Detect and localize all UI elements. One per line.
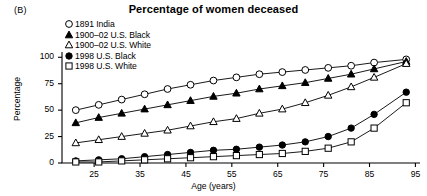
- marker-open-square: [119, 158, 125, 164]
- marker-filled-circle: [403, 89, 409, 95]
- marker-open-circle: [279, 69, 286, 76]
- axis-lines: [62, 52, 420, 163]
- y-tick-label: 0: [28, 157, 54, 167]
- series-line: [76, 92, 406, 161]
- marker-open-square: [96, 159, 102, 165]
- marker-open-triangle: [370, 73, 377, 80]
- marker-filled-circle: [210, 147, 216, 153]
- marker-filled-circle: [302, 139, 308, 145]
- y-tick-label: 50: [28, 104, 54, 114]
- marker-open-circle: [256, 71, 263, 78]
- marker-open-triangle: [347, 83, 354, 90]
- marker-open-square: [73, 159, 79, 165]
- marker-open-square: [325, 145, 331, 151]
- marker-open-circle: [118, 96, 125, 103]
- x-tick-label: 25: [81, 169, 107, 179]
- marker-open-square: [302, 148, 308, 154]
- x-tick-label: 75: [311, 169, 337, 179]
- series-line: [76, 62, 406, 123]
- marker-filled-circle: [348, 125, 354, 131]
- x-tick-label: 65: [265, 169, 291, 179]
- marker-open-square: [164, 156, 170, 162]
- figure-panel: (B) Percentage of women deceased 1891 In…: [0, 0, 427, 196]
- marker-open-circle: [325, 64, 332, 71]
- marker-open-circle: [72, 107, 79, 114]
- marker-open-circle: [187, 81, 194, 88]
- marker-open-circle: [233, 74, 240, 81]
- marker-open-square: [233, 153, 239, 159]
- y-tick-label: 25: [28, 131, 54, 141]
- marker-open-square: [348, 139, 354, 145]
- marker-open-square: [142, 157, 148, 163]
- series-1: [72, 58, 410, 126]
- x-tick-label: 85: [357, 169, 383, 179]
- series-0: [72, 56, 409, 114]
- series-line: [76, 103, 406, 162]
- series-line: [76, 64, 406, 143]
- marker-open-square: [371, 125, 377, 131]
- y-tick-label: 100: [28, 51, 54, 61]
- plot-area: [0, 0, 427, 196]
- marker-filled-circle: [325, 133, 331, 139]
- marker-filled-circle: [233, 146, 239, 152]
- marker-open-circle: [302, 67, 309, 74]
- marker-open-square: [187, 155, 193, 161]
- marker-open-circle: [348, 62, 355, 69]
- marker-filled-circle: [371, 111, 377, 117]
- marker-filled-circle: [256, 144, 262, 150]
- marker-filled-circle: [279, 142, 285, 148]
- marker-open-circle: [141, 91, 148, 98]
- marker-open-circle: [95, 101, 102, 108]
- marker-open-circle: [164, 86, 171, 93]
- x-tick-label: 45: [173, 169, 199, 179]
- x-tick-label: 35: [127, 169, 153, 179]
- x-tick-label: 55: [219, 169, 245, 179]
- y-tick-label: 75: [28, 78, 54, 88]
- marker-open-circle: [210, 77, 217, 84]
- x-tick-label: 95: [402, 169, 427, 179]
- marker-open-square: [403, 100, 409, 106]
- series-4: [73, 100, 410, 165]
- marker-open-square: [210, 154, 216, 160]
- marker-open-square: [256, 151, 262, 157]
- marker-open-square: [279, 150, 285, 156]
